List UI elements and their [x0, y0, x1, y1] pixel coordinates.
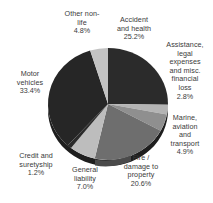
- pie-label-fire-value: 20.6%: [131, 179, 152, 188]
- pie-slices: [48, 48, 168, 160]
- pie-slice-accident-and-health: [108, 48, 168, 105]
- pie-label-other-non-life: Other non- life 4.8%: [56, 10, 108, 36]
- pie-label-accident-and-health: Accident and health 25.2%: [110, 16, 158, 42]
- pie-label-motor-value: 33.4%: [20, 86, 41, 95]
- pie-label-motor-vehicles: Motor vehicles 33.4%: [6, 70, 54, 96]
- pie-label-assistance-legal-expenses: Assistance, legal expenses and misc. fin…: [160, 41, 210, 101]
- pie-label-assistance-value: 2.8%: [177, 92, 194, 101]
- pie-label-fire-damage-to-property: Fire / damage to property 20.6%: [114, 154, 168, 188]
- pie-label-general-liability: General liability 7.0%: [62, 166, 108, 192]
- pie-label-credit-value: 1.2%: [28, 168, 45, 177]
- pie-label-marine-aviation-transport: Marine, aviation and transport 4.9%: [160, 114, 210, 157]
- pie-label-accident-and-health-value: 25.2%: [124, 32, 145, 41]
- pie-label-credit-and-suretyship: Credit and suretyship 1.2%: [8, 152, 64, 178]
- pie-label-general-liability-value: 7.0%: [77, 182, 94, 191]
- pie-chart-figure: Other non- life 4.8% Accident and health…: [0, 0, 213, 203]
- pie-label-other-non-life-value: 4.8%: [74, 26, 91, 35]
- pie-label-marine-value: 4.9%: [177, 147, 194, 156]
